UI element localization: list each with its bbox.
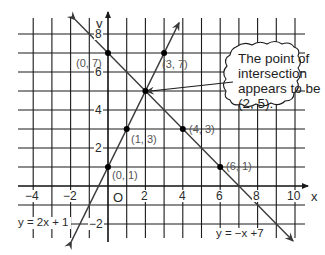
callout-line-1: The point of xyxy=(238,51,321,66)
y-tick-neg2: −2 xyxy=(88,218,104,230)
point-label-4-3: (4, 3) xyxy=(189,124,215,135)
callout-line-4: (2, 5). xyxy=(238,96,321,111)
y-tick-8: 8 xyxy=(94,28,103,40)
x-axis-label: x xyxy=(310,190,319,203)
point-2-5-intersection xyxy=(142,88,148,94)
point-3-7 xyxy=(161,50,167,56)
point-label-1-3: (1, 3) xyxy=(131,134,157,145)
equation-label-neg-x-plus-7: y = −x +7 xyxy=(214,228,266,240)
callout-line-2: intersection xyxy=(238,66,321,81)
point-label-6-1: (6, 1) xyxy=(226,161,252,172)
point-label-3-7: (3, 7) xyxy=(162,59,188,70)
callout-text: The point of intersection appears to be … xyxy=(238,51,321,111)
x-tick-neg4: −4 xyxy=(24,190,40,202)
x-tick-10: 10 xyxy=(286,190,301,202)
x-tick-2: 2 xyxy=(140,190,149,202)
x-tick-4: 4 xyxy=(178,190,187,202)
point-1-3 xyxy=(124,126,130,132)
y-tick-4: 4 xyxy=(94,104,103,116)
point-0-7 xyxy=(105,50,111,56)
point-6-1 xyxy=(217,164,223,170)
origin-label: O xyxy=(112,191,124,204)
x-tick-6: 6 xyxy=(215,190,224,202)
callout-line-3: appears to be xyxy=(238,81,321,96)
x-tick-8: 8 xyxy=(252,190,261,202)
y-tick-2: 2 xyxy=(94,142,103,154)
point-0-1 xyxy=(105,164,111,170)
point-label-0-7: (0, 7) xyxy=(76,58,102,69)
equation-label-2x-plus-1: y = 2x + 1 xyxy=(16,217,71,229)
point-4-3 xyxy=(180,126,186,132)
coordinate-graph: y x O −4 −2 2 4 6 8 10 8 6 4 2 −2 (0, 7)… xyxy=(0,0,325,255)
point-label-0-1: (0, 1) xyxy=(112,170,138,181)
x-tick-neg2: −2 xyxy=(62,190,78,202)
